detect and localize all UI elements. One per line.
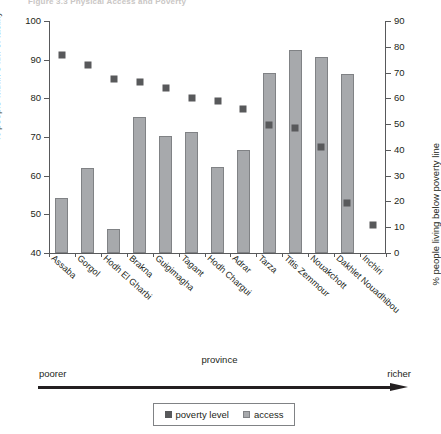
marker-poverty-level	[266, 122, 273, 129]
poorer-label: poorer	[39, 368, 66, 379]
y-axis-right-tick-label: 80	[394, 42, 405, 52]
y-axis-right-tick	[386, 98, 391, 99]
x-axis-tick	[386, 253, 387, 257]
marker-poverty-level	[188, 94, 195, 101]
marker-poverty-level	[292, 124, 299, 131]
y-axis-left-tick-label: 90	[30, 55, 41, 65]
legend-item-poverty-level: poverty level	[165, 409, 229, 420]
x-axis-title: province	[0, 354, 439, 365]
y-axis-left-title: % people within 5 km of facility	[0, 12, 2, 141]
y-axis-left-tick-label: 60	[30, 171, 41, 181]
marker-poverty-level	[214, 97, 221, 104]
x-axis-category-labels: AssabaGorgolHodh El GharbiBraknaGuigimag…	[49, 253, 386, 343]
y-axis-right-tick-label: 0	[394, 248, 399, 258]
marker-poverty-level	[110, 76, 117, 83]
y-axis-right-tick	[386, 73, 391, 74]
wealth-gradient-arrow	[38, 383, 413, 392]
richer-label: richer	[387, 368, 411, 379]
y-axis-right-tick-label: 50	[394, 119, 405, 129]
y-axis-right-tick-label: 70	[394, 68, 405, 78]
access-swatch-icon	[243, 411, 250, 418]
marker-poverty-level	[136, 79, 143, 86]
legend-item-access: access	[243, 409, 284, 420]
y-axis-right-tick-label: 90	[394, 16, 405, 26]
legend-label-access: access	[254, 409, 284, 420]
marker-poverty-level	[318, 144, 325, 151]
y-axis-right-tick	[386, 227, 391, 228]
marker-poverty-level	[344, 199, 351, 206]
legend-label-poverty-level: poverty level	[176, 409, 229, 420]
y-axis-right-tick-label: 10	[394, 222, 405, 232]
y-axis-right-tick	[386, 21, 391, 22]
y-axis-right-tick-label: 20	[394, 196, 405, 206]
y-axis-left-tick-label: 50	[30, 209, 41, 219]
plot-area: 100908070605040 9080706050403020100	[49, 21, 386, 253]
x-axis-category-label: Adrar	[231, 253, 254, 275]
marker-poverty-level	[240, 105, 247, 112]
x-axis-category-label: Tarza	[257, 253, 280, 275]
y-axis-right-tick-label: 60	[394, 93, 405, 103]
marker-poverty-level	[162, 84, 169, 91]
y-axis-right-tick	[386, 150, 391, 151]
y-axis-right-tick	[386, 176, 391, 177]
marker-poverty-level	[370, 221, 377, 228]
arrow-line	[38, 386, 395, 389]
chart-legend: poverty level access	[153, 403, 295, 426]
x-axis-category-label: Assaba	[49, 253, 78, 281]
x-axis-category-label: Gorgol	[75, 253, 102, 279]
y-axis-right-title: % people living below poverty line	[430, 143, 441, 286]
y-axis-right-tick-label: 40	[394, 145, 405, 155]
x-axis-category-label: Hodh Chargui	[205, 253, 253, 298]
y-axis-left-tick-label: 100	[25, 16, 41, 26]
y-axis-right-tick-label: 30	[394, 171, 405, 181]
y-axis-left-tick-label: 40	[30, 248, 41, 258]
y-axis-left-tick-label: 70	[30, 132, 41, 142]
figure-title: Figure 3.3 Physical Access and Poverty	[28, 0, 358, 7]
arrow-head-icon	[390, 383, 408, 391]
marker-poverty-level	[58, 51, 65, 58]
poverty-level-swatch-icon	[165, 411, 172, 418]
y-axis-right-tick	[386, 124, 391, 125]
scatter-series-poverty-level	[49, 21, 386, 253]
y-axis-left-tick-label: 80	[30, 93, 41, 103]
y-axis-right-tick	[386, 47, 391, 48]
marker-poverty-level	[84, 62, 91, 69]
y-axis-right-tick	[386, 201, 391, 202]
